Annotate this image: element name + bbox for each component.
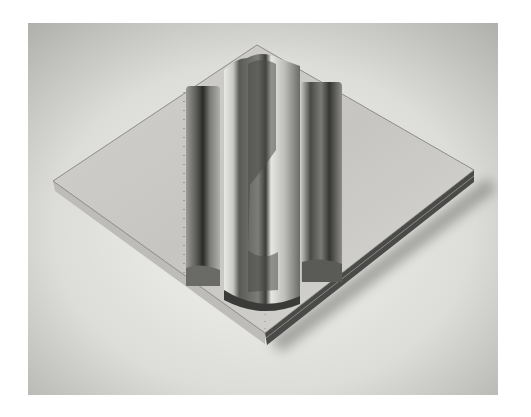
photo-canvas: [28, 23, 498, 395]
right-rod: [300, 82, 342, 282]
left-rod: [186, 86, 220, 286]
right-rod-base: [302, 259, 342, 282]
sculpture-photograph: [28, 23, 498, 395]
left-rod-base: [186, 265, 220, 286]
